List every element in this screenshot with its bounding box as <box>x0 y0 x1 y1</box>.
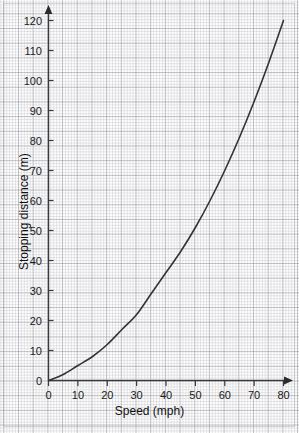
y-axis-arrowhead <box>45 5 53 14</box>
x-tick-label-20: 20 <box>101 389 113 401</box>
stopping-distance-curve <box>49 21 284 381</box>
x-tick-label-60: 60 <box>219 389 231 401</box>
y-tick-label-10: 10 <box>2 345 42 357</box>
stopping-distance-chart: 0 10 20 30 40 50 60 70 80 90 100 110 120… <box>0 0 299 433</box>
x-tick-label-10: 10 <box>72 389 84 401</box>
x-tick-label-50: 50 <box>189 389 201 401</box>
y-tick-label-30: 30 <box>2 285 42 297</box>
x-axis-title: Speed (mph) <box>0 404 299 418</box>
y-tick-label-120: 120 <box>2 15 42 27</box>
x-tick-label-70: 70 <box>248 389 260 401</box>
plot-area <box>0 0 299 433</box>
x-tick-label-0: 0 <box>45 389 51 401</box>
x-axis-arrowhead <box>284 377 293 385</box>
y-tick-label-20: 20 <box>2 315 42 327</box>
y-tick-label-80: 80 <box>2 135 42 147</box>
y-axis-title: Stopping distance (m) <box>17 153 31 270</box>
y-tick-label-110: 110 <box>2 45 42 57</box>
y-axis-ticks <box>49 21 54 381</box>
x-tick-label-80: 80 <box>277 389 289 401</box>
y-tick-label-0: 0 <box>2 375 42 387</box>
y-tick-label-90: 90 <box>2 105 42 117</box>
x-axis-ticks <box>49 381 284 387</box>
x-tick-label-30: 30 <box>130 389 142 401</box>
y-tick-label-100: 100 <box>2 75 42 87</box>
x-tick-label-40: 40 <box>160 389 172 401</box>
